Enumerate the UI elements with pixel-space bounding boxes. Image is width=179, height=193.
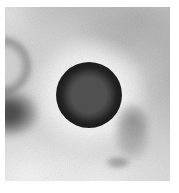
faint-blob-bottom-right — [113, 103, 151, 163]
vesicle-dark-circle — [56, 62, 122, 128]
micrograph-photo — [5, 7, 170, 181]
screenshot-canvas — [0, 0, 179, 193]
smudge-bottom — [105, 156, 131, 169]
